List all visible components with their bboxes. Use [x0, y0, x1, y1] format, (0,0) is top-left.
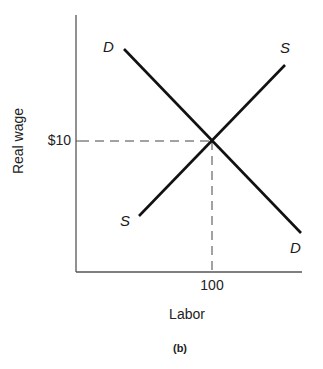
demand-label-top: D [103, 38, 114, 55]
x-tick-label: 100 [200, 277, 223, 293]
supply-label-bottom: S [120, 212, 130, 229]
chart-plot-area [0, 0, 323, 369]
supply-demand-figure: Real wage $10 100 Labor (b) D D S S [0, 0, 323, 369]
y-axis-label: Real wage [10, 108, 26, 174]
demand-label-bottom: D [290, 239, 301, 256]
y-tick-label: $10 [48, 132, 71, 148]
supply-label-top: S [280, 39, 290, 56]
figure-caption: (b) [173, 342, 187, 354]
x-axis-label: Labor [169, 306, 205, 322]
